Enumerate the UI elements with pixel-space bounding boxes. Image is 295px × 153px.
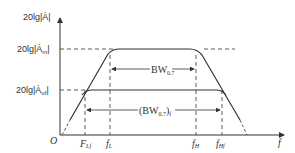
f-lf-label: FLf bbox=[79, 138, 92, 149]
feedback-gain-label: 20lg|Ȧuf| bbox=[16, 85, 49, 96]
bode-plot: 20lg|Ȧ| 20lg|Ȧm| 20lg|Ȧuf| O f FLf fL fH… bbox=[0, 0, 295, 153]
y-axis-label: 20lg|Ȧ| bbox=[23, 12, 51, 22]
f-l-label: fL bbox=[106, 138, 113, 149]
origin-label: O bbox=[50, 135, 57, 146]
feedback-curve bbox=[82, 90, 226, 95]
f-h-label: fH bbox=[192, 138, 200, 149]
x-axis-label: f bbox=[278, 137, 282, 148]
midband-gain-label: 20lg|Ȧm| bbox=[17, 44, 50, 55]
bw-label: BW0.7 bbox=[151, 64, 175, 76]
low-asymptote bbox=[62, 120, 70, 135]
f-hf-label: fHf bbox=[216, 138, 226, 149]
bwf-label: (BW0.7)f bbox=[139, 105, 171, 117]
high-asymptote bbox=[240, 120, 247, 135]
